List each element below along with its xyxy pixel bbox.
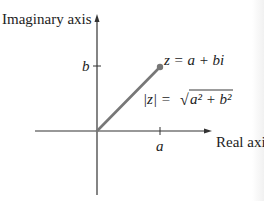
z-equation-label: z = a + bi: [163, 52, 224, 68]
modulus-lhs: |z| =: [143, 91, 171, 107]
point-z-dot: [157, 64, 163, 70]
real-axis-arrowhead-icon: [204, 129, 212, 134]
imaginary-axis-label: Imaginary axis: [2, 11, 92, 27]
real-axis-label: Real axis: [216, 134, 264, 150]
imaginary-axis-arrowhead-icon: [95, 14, 100, 22]
a-tick-label: a: [156, 138, 164, 154]
modulus-radicand: a² + b²: [190, 91, 232, 107]
b-tick-label: b: [82, 58, 90, 74]
modulus-formula: |z| = √ a² + b²: [143, 90, 233, 108]
complex-plane-diagram: Imaginary axis Real axis b a z = a + bi …: [0, 0, 264, 201]
sqrt-sign-icon: √: [180, 91, 189, 108]
